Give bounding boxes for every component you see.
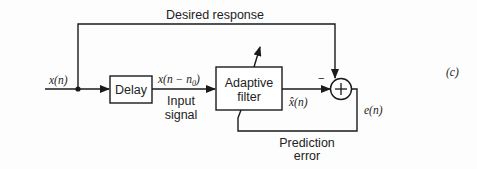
- adaptive-filter-label-line1: Adaptive: [225, 76, 274, 90]
- adaptive-predictor-diagram: Desired response x(n) Delay x(n − n0) In…: [0, 0, 477, 169]
- estimate-label: x̂(n): [288, 96, 308, 109]
- delayed-signal-close: ): [195, 73, 200, 86]
- input-signal-label: x(n): [48, 74, 68, 87]
- adaptive-filter-label-line2: filter: [237, 90, 261, 104]
- prediction-error-line2: error: [294, 149, 320, 163]
- input-annotation-line1: Input: [167, 94, 195, 108]
- input-annotation-line2: signal: [165, 108, 198, 122]
- prediction-error-line1: Prediction: [279, 136, 335, 150]
- delayed-signal-main: x(n − n: [157, 73, 192, 86]
- delay-label: Delay: [115, 83, 148, 97]
- minus-sign: −: [318, 72, 324, 84]
- desired-response-label: Desired response: [166, 8, 264, 22]
- figure-panel-label: (c): [446, 66, 459, 79]
- delayed-signal-label: x(n − n0): [157, 73, 200, 88]
- diagram-svg: Desired response x(n) Delay x(n − n0) In…: [0, 0, 477, 169]
- adaptation-arrow: [254, 47, 260, 67]
- error-signal-label: e(n): [364, 104, 383, 117]
